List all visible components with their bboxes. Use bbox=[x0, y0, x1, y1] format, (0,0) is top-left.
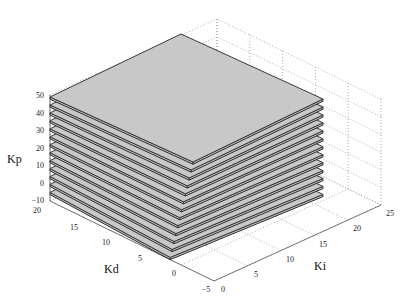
kd-tick: 20 bbox=[33, 206, 41, 215]
kd-tick: −5 bbox=[202, 285, 211, 294]
ki-axis-label: Ki bbox=[314, 259, 327, 273]
kp-tick: 0 bbox=[40, 179, 44, 188]
ki-tick: 10 bbox=[286, 255, 294, 264]
kp-tick: 10 bbox=[36, 161, 44, 170]
ki-tick: 25 bbox=[386, 209, 394, 218]
ki-tick: 20 bbox=[353, 224, 361, 233]
ki-tick: 5 bbox=[254, 270, 258, 279]
kd-tick: 5 bbox=[138, 254, 142, 263]
kp-tick: 50 bbox=[36, 91, 44, 100]
kp-tick-labels: 50 40 30 20 10 0 −10 bbox=[31, 91, 44, 205]
surface-layers bbox=[50, 34, 323, 260]
ki-tick: 15 bbox=[319, 240, 327, 249]
surface-plot-3d: 50 40 30 20 10 0 −10 Kp 20 15 10 5 0 −5 … bbox=[0, 0, 410, 305]
kp-tick: 20 bbox=[36, 144, 44, 153]
kp-tick: 30 bbox=[36, 126, 44, 135]
kd-tick: 15 bbox=[70, 223, 78, 232]
kd-tick: 10 bbox=[102, 238, 110, 247]
kp-axis-label: Kp bbox=[7, 152, 22, 166]
kp-tick: 40 bbox=[36, 109, 44, 118]
kd-axis-label: Kd bbox=[104, 262, 119, 276]
ki-tick: 0 bbox=[221, 285, 225, 294]
kp-tick: −10 bbox=[31, 196, 44, 205]
kd-tick: 0 bbox=[172, 269, 176, 278]
